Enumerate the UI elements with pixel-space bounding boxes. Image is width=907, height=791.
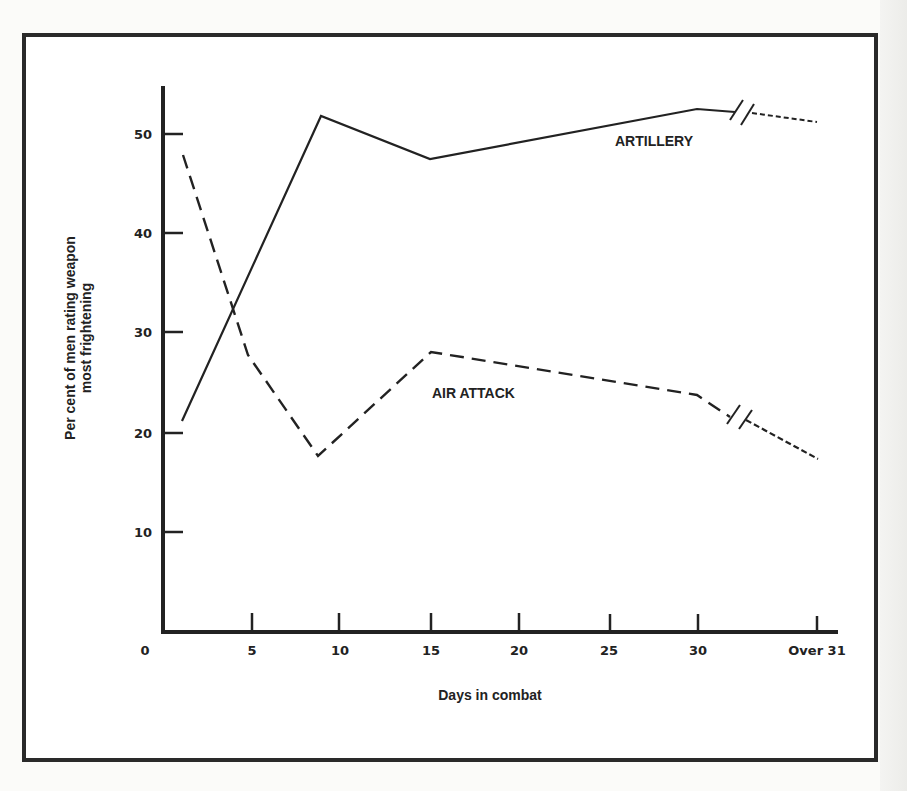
y-tick-20: 20 <box>134 426 152 441</box>
y-axis-title-line1: Per cent of men rating weapon <box>62 236 78 440</box>
y-tick-30: 30 <box>134 325 152 340</box>
y-axis-title: Per cent of men rating weapon most frigh… <box>62 236 94 440</box>
x-tick-over-31: Over 31 <box>788 643 845 658</box>
label-air-attack: AIR ATTACK <box>432 385 515 401</box>
axis-break-mark <box>727 405 740 424</box>
axis-break-mark <box>739 410 752 429</box>
x-tick-10: 10 <box>331 643 349 658</box>
axis-break-mark <box>741 104 754 125</box>
x-tick-20: 20 <box>510 643 528 658</box>
x-tick-30: 30 <box>689 643 707 658</box>
y-tick-10: 10 <box>134 525 152 540</box>
x-tick-5: 5 <box>247 643 256 658</box>
y-axis-title-line2: most frightening <box>78 283 94 393</box>
line-chart: 50 40 30 20 10 0 5 10 15 20 25 30 Over 3… <box>0 0 907 791</box>
y-ticks <box>163 134 183 532</box>
y-tick-50: 50 <box>134 127 152 142</box>
axis-break-mark <box>730 100 743 120</box>
x-axis-title: Days in combat <box>438 687 542 703</box>
x-tick-0: 0 <box>140 643 149 658</box>
y-tick-40: 40 <box>134 226 152 241</box>
x-ticks <box>252 613 817 632</box>
label-artillery: ARTILLERY <box>615 133 694 149</box>
x-tick-labels: 0 5 10 15 20 25 30 Over 31 <box>140 643 845 658</box>
y-tick-labels: 50 40 30 20 10 <box>134 127 152 540</box>
x-tick-25: 25 <box>600 643 618 658</box>
series-artillery <box>182 100 817 421</box>
series-air-attack <box>183 155 818 459</box>
x-tick-15: 15 <box>422 643 440 658</box>
